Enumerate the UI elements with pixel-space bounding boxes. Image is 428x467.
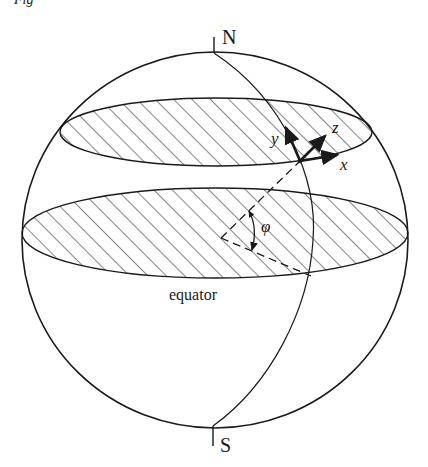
y-axis-label: y <box>269 129 279 148</box>
z-axis-label: z <box>331 118 339 137</box>
phi-label: φ <box>261 217 270 236</box>
x-axis-label: x <box>339 155 348 174</box>
sphere-rotating-frame-diagram: Fig N S φ <box>0 0 428 467</box>
north-label: N <box>222 26 236 48</box>
diagram-canvas: Fig N S φ <box>0 0 428 467</box>
equator-label: equator <box>169 286 218 304</box>
south-label: S <box>220 434 231 456</box>
equator-plane <box>22 188 408 278</box>
figure-caption-fragment: Fig <box>13 0 33 7</box>
